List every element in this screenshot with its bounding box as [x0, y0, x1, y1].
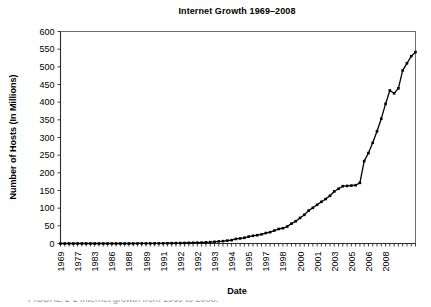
data-point-marker	[333, 190, 336, 193]
data-point-marker	[286, 225, 289, 228]
data-point-marker	[115, 242, 118, 245]
x-tick-label: 2006	[364, 252, 374, 272]
data-point-marker	[140, 242, 143, 245]
x-tick-label: 2005	[347, 252, 357, 272]
data-point-marker	[393, 92, 396, 95]
data-point-marker	[397, 87, 400, 90]
data-point-marker	[222, 240, 225, 243]
x-tick-label: 1998	[278, 252, 288, 272]
y-tick-label: 550	[39, 44, 54, 54]
data-point-marker	[106, 242, 109, 245]
data-point-marker	[183, 242, 186, 245]
data-point-marker	[269, 231, 272, 234]
data-point-marker	[406, 62, 409, 65]
data-point-marker	[59, 242, 62, 245]
y-tick-label: 100	[39, 203, 54, 213]
data-point-marker	[277, 228, 280, 231]
data-point-marker	[320, 201, 323, 204]
data-point-marker	[410, 55, 413, 58]
data-point-marker	[235, 238, 238, 241]
y-tick-label: 400	[39, 97, 54, 107]
data-point-marker	[145, 242, 148, 245]
x-tick-label: 1983	[90, 252, 100, 272]
data-point-marker	[239, 237, 242, 240]
data-point-marker	[98, 242, 101, 245]
data-point-marker	[93, 242, 96, 245]
data-point-marker	[316, 203, 319, 206]
y-tick-label: 300	[39, 133, 54, 143]
data-point-marker	[299, 217, 302, 220]
data-point-marker	[384, 103, 387, 106]
data-point-marker	[68, 242, 71, 245]
y-tick-label: 250	[39, 150, 54, 160]
y-tick-label: 350	[39, 115, 54, 125]
x-tick-label: 1977	[73, 252, 83, 272]
y-tick-label: 150	[39, 186, 54, 196]
chart-title: Internet Growth 1969–2008	[178, 6, 295, 16]
data-point-marker	[414, 51, 417, 54]
data-point-marker	[337, 187, 340, 190]
data-point-marker	[217, 240, 220, 243]
figure-caption: FIGURE 1-1 Internet growth from 1969 to …	[28, 300, 218, 304]
plot-area: 600550500450400350300250200150100500	[39, 27, 416, 249]
data-point-marker	[324, 198, 327, 201]
x-tick-label: 1989	[142, 252, 152, 272]
data-point-marker	[307, 209, 310, 212]
data-point-marker	[170, 242, 173, 245]
data-point-marker	[341, 185, 344, 188]
x-axis-title: Date	[227, 286, 247, 296]
data-point-marker	[85, 242, 88, 245]
x-tick-label: 1991	[159, 252, 169, 272]
data-point-marker	[376, 130, 379, 133]
x-tick-label: 1994	[227, 252, 237, 272]
y-tick-label: 50	[44, 221, 54, 231]
x-tick-label: 2001	[313, 252, 323, 272]
x-tick-label: 1988	[124, 252, 134, 272]
data-point-marker	[401, 69, 404, 72]
x-tick-label: 1986	[107, 252, 117, 272]
y-tick-label: 200	[39, 168, 54, 178]
data-point-marker	[153, 242, 156, 245]
data-point-marker	[136, 242, 139, 245]
data-point-marker	[175, 242, 178, 245]
y-tick-label: 500	[39, 62, 54, 72]
data-point-marker	[76, 242, 79, 245]
data-point-marker	[81, 242, 84, 245]
data-point-marker	[149, 242, 152, 245]
data-point-marker	[303, 214, 306, 217]
data-point-marker	[265, 232, 268, 235]
data-point-marker	[166, 242, 169, 245]
data-point-marker	[363, 160, 366, 163]
x-tick-label: 2008	[381, 252, 391, 272]
plot-frame	[61, 32, 416, 244]
figure-caption-strip: FIGURE 1-1 Internet growth from 1969 to …	[0, 300, 431, 307]
data-point-marker	[158, 242, 161, 245]
data-point-marker	[290, 222, 293, 225]
data-point-marker	[294, 220, 297, 223]
y-tick-label: 600	[39, 27, 54, 37]
data-point-marker	[162, 242, 165, 245]
data-point-marker	[367, 152, 370, 155]
y-tick-label: 450	[39, 80, 54, 90]
data-point-marker	[354, 184, 357, 187]
data-point-marker	[192, 241, 195, 244]
x-tick-label: 1997	[261, 252, 271, 272]
data-point-marker	[111, 242, 114, 245]
data-point-marker	[226, 239, 229, 242]
data-point-marker	[128, 242, 131, 245]
chart-figure: Internet Growth 1969–2008 Number of Host…	[0, 0, 431, 307]
data-point-marker	[247, 235, 250, 238]
x-tick-label: 1992	[176, 252, 186, 272]
data-point-marker	[282, 227, 285, 230]
data-point-marker	[132, 242, 135, 245]
x-tick-label: 1992	[193, 252, 203, 272]
data-point-marker	[102, 242, 105, 245]
data-point-marker	[329, 195, 332, 198]
data-point-marker	[256, 234, 259, 237]
y-tick-label: 0	[49, 239, 54, 249]
data-point-marker	[179, 242, 182, 245]
data-point-marker	[389, 89, 392, 92]
x-tick-label: 1969	[56, 252, 66, 272]
data-point-marker	[63, 242, 66, 245]
data-point-marker	[359, 182, 362, 185]
